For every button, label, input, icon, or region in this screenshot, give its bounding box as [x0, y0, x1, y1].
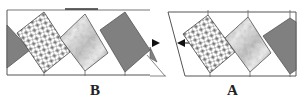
- panel-b: [7, 9, 150, 76]
- arrow-left-icon: [177, 39, 185, 47]
- textured-square: [225, 17, 271, 72]
- textured-square: [60, 14, 108, 71]
- top-ticks: [208, 10, 290, 18]
- hatched-square: [17, 12, 70, 73]
- hatched-square: [183, 15, 235, 73]
- arrow-right-icon: [152, 39, 160, 47]
- gray-square: [100, 12, 150, 72]
- panel-a-label: A: [227, 82, 238, 99]
- panel-a-left-fragment: [147, 47, 166, 76]
- gray-square: [263, 18, 296, 74]
- diagram-canvas: [0, 0, 299, 104]
- panel-b-label: B: [90, 82, 100, 99]
